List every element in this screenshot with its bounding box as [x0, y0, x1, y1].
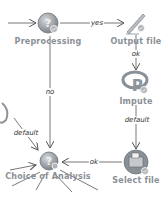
- node-label-select-file[interactable]: Select file: [112, 176, 159, 185]
- question-icon[interactable]: ?: [38, 13, 58, 33]
- question-icon[interactable]: ?: [40, 152, 58, 170]
- r-logo-icon[interactable]: R: [123, 72, 148, 95]
- edge-label-no: no: [45, 88, 56, 96]
- svg-text:?: ?: [46, 156, 52, 167]
- edge-label-ok-select: ok: [89, 158, 99, 166]
- node-label-output-file[interactable]: Output file: [111, 37, 162, 46]
- workflow-canvas[interactable]: ? R ?: [0, 0, 168, 199]
- edge-label-yes: yes: [90, 19, 104, 27]
- edge-label-ok-output: ok: [131, 50, 141, 58]
- edge-label-default-left: default: [13, 129, 40, 137]
- node-label-preprocessing[interactable]: Preprocessing: [15, 37, 82, 46]
- node-label-impute[interactable]: Impute: [119, 97, 152, 106]
- folder-icon[interactable]: [124, 150, 149, 175]
- edge-incoming-choice-left[interactable]: [10, 165, 36, 170]
- node-label-choice-of-analysis[interactable]: Choice of Analysis: [5, 172, 91, 181]
- pen-icon[interactable]: [126, 14, 145, 34]
- edge-label-default-impute: default: [124, 116, 151, 124]
- partial-node-icon[interactable]: [0, 103, 7, 123]
